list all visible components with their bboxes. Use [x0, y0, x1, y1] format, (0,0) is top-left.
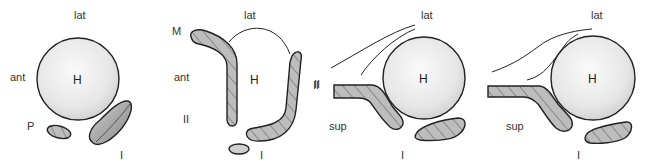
shoulder-diagram: lat ant H P I M lat ant II II H I lat H — [0, 0, 647, 164]
humeral-head-outline — [229, 28, 290, 54]
label-i: I — [401, 149, 404, 161]
small-structure-p — [46, 123, 72, 141]
small-structure — [229, 144, 249, 154]
label-p: P — [27, 120, 34, 132]
label-i: I — [260, 149, 263, 161]
label-ant: ant — [174, 71, 189, 83]
label-head: H — [250, 73, 259, 87]
panel-2: M lat ant II II H I — [172, 9, 320, 161]
label-ii: II — [313, 79, 319, 91]
label-lat: lat — [244, 9, 256, 21]
label-sup: sup — [506, 120, 524, 132]
left-hatched-structure — [191, 30, 237, 126]
lower-hatched-structure — [415, 118, 465, 140]
label-head: H — [588, 72, 597, 86]
right-hatched-structure — [246, 52, 301, 141]
panel-1: lat ant H P I — [10, 9, 131, 161]
panel-3: lat H II sup I — [313, 9, 465, 161]
label-head: H — [419, 72, 428, 86]
label-i: I — [577, 149, 580, 161]
label-i: I — [120, 149, 123, 161]
label-lat: lat — [74, 9, 86, 21]
label-ant: ant — [10, 71, 25, 83]
label-ii-left: II — [183, 113, 189, 125]
panel-4: lat H sup I — [488, 9, 635, 161]
label-sup: sup — [329, 120, 347, 132]
label-lat: lat — [421, 9, 433, 21]
label-head: H — [73, 73, 82, 87]
label-m: M — [172, 25, 181, 37]
label-lat: lat — [591, 9, 603, 21]
lower-hatched-structure — [585, 122, 631, 143]
